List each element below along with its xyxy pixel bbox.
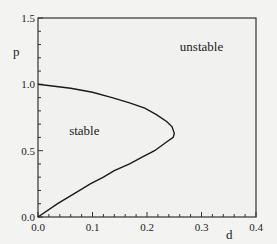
x-tick-label: 0.3 (195, 221, 209, 233)
y-tick-label: 1.5 (21, 12, 35, 24)
x-axis-label: d (226, 227, 233, 242)
y-tick-label: 1.0 (21, 78, 35, 90)
y-tick-label: 0.5 (21, 145, 35, 157)
y-tick-label: 0.0 (21, 211, 35, 223)
stability-chart: 0.00.10.20.30.4 0.00.51.01.5 d p stableu… (0, 0, 277, 244)
annotation-stable: stable (69, 123, 100, 138)
y-axis-label: p (13, 44, 20, 59)
x-tick-label: 0.4 (249, 221, 263, 233)
x-tick-label: 0.1 (86, 221, 100, 233)
x-tick-label: 0.2 (140, 221, 154, 233)
annotation-unstable: unstable (180, 39, 224, 54)
plot-area (38, 18, 256, 217)
